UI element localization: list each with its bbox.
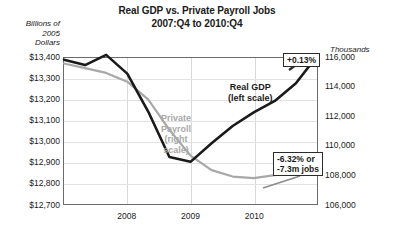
- annotation-gdp: +0.13%: [283, 53, 320, 67]
- chart-title-line1: Real GDP vs. Private Payroll Jobs: [0, 5, 394, 18]
- x-axis-tick: 2010: [234, 211, 274, 221]
- right-axis-tick: 114,000: [325, 81, 355, 91]
- right-axis-tick: 110,000: [325, 140, 355, 150]
- series-label-gdp: Real GDP (left scale): [228, 82, 273, 103]
- series-label-payroll-line4: scale): [161, 145, 191, 156]
- right-axis-tick: 116,000: [325, 52, 355, 62]
- series-label-payroll-line2: Payroll: [161, 124, 191, 135]
- left-axis-tick: $12,700: [2, 200, 60, 210]
- chart-root: Real GDP vs. Private Payroll Jobs 2007:Q…: [0, 0, 394, 247]
- series-label-payroll: Private Payroll (right scale): [161, 113, 191, 155]
- left-axis-header-line2: 2005: [4, 29, 60, 39]
- left-axis-tick: $13,100: [2, 115, 60, 125]
- left-axis-tick: $12,900: [2, 157, 60, 167]
- x-axis-tick: 2008: [107, 211, 147, 221]
- left-axis-tick: $13,400: [2, 52, 60, 62]
- left-axis-header-line1: Billions of: [4, 19, 60, 29]
- series-label-gdp-line1: Real GDP: [228, 82, 273, 93]
- left-axis-tick: $13,000: [2, 136, 60, 146]
- series-label-gdp-line2: (left scale): [228, 93, 273, 104]
- annotation-jobs: -6.32% or -7.3m jobs: [273, 152, 323, 176]
- right-axis-tick: 112,000: [325, 111, 355, 121]
- left-axis-tick: $13,300: [2, 73, 60, 83]
- x-axis-tick: 2009: [171, 211, 211, 221]
- left-axis-tick: $13,200: [2, 94, 60, 104]
- annotation-jobs-line1: -6.32% or: [277, 154, 319, 164]
- left-axis-header: Billions of 2005 Dollars: [4, 19, 60, 48]
- right-axis-tick: 106,000: [325, 200, 356, 210]
- series-label-payroll-line3: (right: [161, 134, 191, 145]
- right-axis-tick: 108,000: [325, 170, 356, 180]
- annotation-jobs-line2: -7.3m jobs: [277, 164, 319, 174]
- series-label-payroll-line1: Private: [161, 113, 191, 124]
- left-axis-tick: $12,800: [2, 178, 60, 188]
- left-axis-header-line3: Dollars: [4, 38, 60, 48]
